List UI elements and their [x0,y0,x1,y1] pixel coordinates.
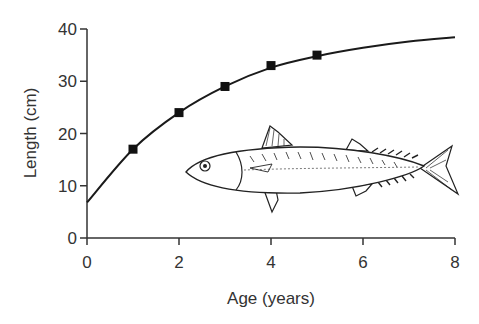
x-tick-label: 8 [450,253,459,272]
y-tick-label: 40 [58,20,77,39]
data-point-marker [129,145,138,154]
fish-illustration [186,126,458,212]
x-tick-label: 0 [82,253,91,272]
data-point-marker [221,82,230,91]
data-point-marker [313,51,322,60]
y-axis-title: Length (cm) [21,88,40,179]
y-tick-label: 0 [68,229,77,248]
data-point-marker [175,108,184,117]
data-point-marker [267,61,276,70]
x-ticks: 02468 [82,238,459,272]
data-markers [129,51,322,154]
x-tick-label: 4 [266,253,275,272]
y-ticks: 010203040 [58,20,87,248]
y-tick-label: 30 [58,72,77,91]
x-axis-title: Age (years) [227,289,315,308]
y-tick-label: 20 [58,125,77,144]
x-tick-label: 2 [174,253,183,272]
growth-chart: 010203040 02468 Age (years) Length (cm) [0,0,479,324]
y-tick-label: 10 [58,177,77,196]
x-tick-label: 6 [358,253,367,272]
